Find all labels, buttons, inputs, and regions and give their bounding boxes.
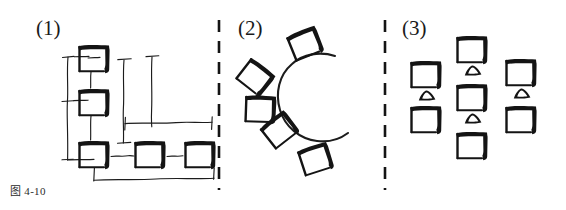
chair-p3-m2 (465, 114, 482, 124)
desk-p3-r1 (505, 59, 537, 87)
desk-p2-5 (296, 141, 335, 178)
figure-drawing (0, 0, 566, 210)
c-shaped-curve (278, 54, 348, 142)
desk-p2-2 (234, 57, 276, 99)
panel-label-2: (2) (238, 16, 263, 41)
desk-p3-l2 (410, 106, 442, 134)
panel-1-group (62, 45, 216, 181)
panel-2-group (234, 25, 348, 178)
panel-3-group (410, 36, 537, 160)
desk-p3-m1 (456, 36, 488, 64)
chair-p3-m1 (465, 66, 482, 76)
desk-p1-bottom-left (78, 141, 110, 169)
chair-p3-r1 (514, 89, 531, 99)
panel-1-dimension-lines (62, 56, 214, 181)
chair-p3-l1 (419, 91, 436, 101)
desk-p3-m2 (456, 84, 488, 112)
desk-p1-bottom-right (184, 141, 216, 169)
desk-p2-1 (285, 25, 325, 63)
desk-p3-m3 (456, 132, 488, 160)
desk-p2-4 (259, 109, 301, 151)
desk-p3-r2 (505, 106, 537, 134)
figure-caption: 图 4-10 (10, 182, 46, 198)
panel-label-3: (3) (402, 16, 427, 41)
desk-p3-l1 (410, 61, 442, 89)
panel-label-1: (1) (36, 16, 61, 41)
desk-p1-top (78, 45, 110, 73)
desk-p1-bottom-mid (134, 141, 166, 169)
desk-p1-middle (78, 89, 110, 117)
figure-container: (1) (2) (3) 图 4-10 (0, 0, 566, 210)
